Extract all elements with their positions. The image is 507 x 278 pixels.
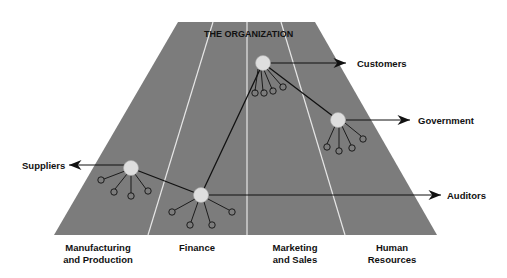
- organization-trapezoid: [54, 22, 437, 235]
- label-suppliers: Suppliers: [22, 160, 65, 171]
- organization-diagram: THE ORGANIZATION Customers Government: [0, 0, 507, 278]
- department-human-resources: Human Resources: [342, 242, 442, 266]
- node-customers: [256, 56, 271, 71]
- label-government: Government: [418, 115, 475, 126]
- node-suppliers: [124, 161, 139, 176]
- department-finance: Finance: [147, 242, 247, 254]
- department-marketing: Marketing and Sales: [245, 242, 345, 266]
- node-auditors: [194, 188, 209, 203]
- label-auditors: Auditors: [447, 190, 486, 201]
- diagram-title: THE ORGANIZATION: [204, 29, 293, 39]
- node-government: [331, 113, 346, 128]
- label-customers: Customers: [357, 58, 407, 69]
- department-manufacturing: Manufacturing and Production: [48, 242, 148, 266]
